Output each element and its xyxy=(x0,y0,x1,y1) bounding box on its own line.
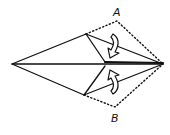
label-b: B xyxy=(111,112,119,125)
fold-arrow-a-icon xyxy=(108,34,119,58)
flap-a-dotted-outline xyxy=(86,21,163,64)
origami-diagram: A B xyxy=(0,0,170,135)
flap-b-dotted-outline xyxy=(84,64,163,107)
fold-arrow-b-icon xyxy=(108,70,119,94)
center-crease-double xyxy=(105,62,163,63)
label-a: A xyxy=(112,6,121,19)
